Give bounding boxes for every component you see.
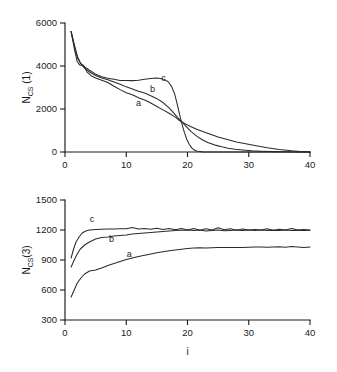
top-x-tick-label: 0	[62, 159, 67, 170]
bottom-curve-label-a: a	[127, 249, 132, 259]
bottom-curve-c	[71, 228, 310, 259]
bottom-y-tick-label: 600	[41, 284, 57, 295]
chart-panel-bottom: 30060090012001500010203040NCS(3)iabc	[0, 184, 337, 372]
top-axis-spine	[65, 23, 310, 152]
bottom-y-tick-label: 900	[41, 254, 57, 265]
top-x-tick-label: 30	[243, 159, 254, 170]
bottom-x-tick-label: 10	[121, 327, 132, 338]
top-y-tick-label: 0	[52, 146, 57, 157]
bottom-y-axis-title: NCS(3)	[21, 245, 34, 274]
top-curve-label-c: c	[161, 73, 166, 83]
bottom-x-tick-label: 0	[62, 327, 67, 338]
figure-container: 0200040006000010203040NCS (1)abc 3006009…	[0, 0, 337, 372]
top-y-tick-label: 6000	[36, 17, 57, 28]
top-y-tick-label: 2000	[36, 103, 57, 114]
top-y-tick-label: 4000	[36, 60, 57, 71]
bottom-y-tick-label: 300	[41, 314, 57, 325]
top-y-axis-title: NCS (1)	[21, 72, 34, 104]
bottom-y-tick-label: 1500	[36, 194, 57, 205]
top-curve-c	[71, 32, 310, 152]
top-curve-b	[71, 32, 310, 152]
bottom-x-axis-title: i	[186, 346, 188, 357]
bottom-curve-label-b: b	[109, 234, 114, 244]
top-chart-svg: 0200040006000010203040NCS (1)abc	[0, 0, 337, 188]
top-x-tick-label: 20	[182, 159, 193, 170]
bottom-chart-svg: 30060090012001500010203040NCS(3)iabc	[0, 184, 337, 372]
chart-panel-top: 0200040006000010203040NCS (1)abc	[0, 0, 337, 188]
top-x-tick-label: 40	[305, 159, 316, 170]
bottom-curve-label-c: c	[90, 214, 95, 224]
svg-text:NCS (1): NCS (1)	[21, 72, 34, 104]
top-curve-a	[71, 32, 310, 152]
svg-text:NCS(3): NCS(3)	[21, 245, 34, 274]
bottom-axis-spine	[65, 200, 310, 320]
bottom-y-tick-label: 1200	[36, 224, 57, 235]
bottom-x-tick-label: 20	[182, 327, 193, 338]
bottom-curve-a	[71, 247, 310, 297]
top-curve-label-a: a	[136, 98, 141, 108]
bottom-x-tick-label: 30	[243, 327, 254, 338]
top-curve-label-b: b	[150, 84, 155, 94]
top-x-tick-label: 10	[121, 159, 132, 170]
bottom-x-tick-label: 40	[305, 327, 316, 338]
